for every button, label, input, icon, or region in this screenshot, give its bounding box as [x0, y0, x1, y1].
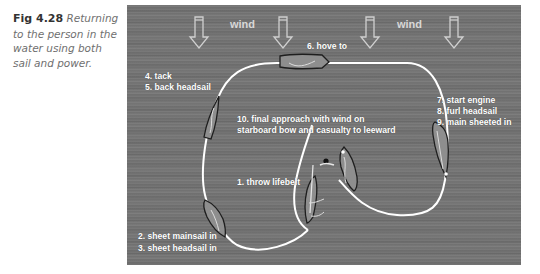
boat-tacking-icon: [204, 96, 219, 139]
wind-arrow-icon: [274, 17, 292, 48]
wind-arrow-icon: [445, 17, 463, 48]
step-final-approach-label: 10. final approach with wind on: [237, 114, 364, 125]
step-tack-label: 4. tack: [145, 71, 172, 82]
step-start-engine-label: 7. start engine: [437, 95, 495, 106]
step-main-sheeted-label: 9. main sheeted in: [437, 117, 512, 128]
boat-track-line: [203, 63, 448, 250]
step-furl-headsail-label: 8. furl headsail: [437, 106, 497, 117]
man-overboard-diagram: wind wind 4. tack 5. back headsail 6. ho…: [127, 5, 521, 265]
step-hove-to-label: 6. hove to: [307, 41, 347, 52]
boat-motoring-icon: [433, 122, 449, 177]
step-back-headsail-label: 5. back headsail: [145, 82, 211, 93]
wind-label: wind: [230, 18, 255, 30]
wind-arrow-icon: [190, 17, 208, 48]
boat-throw-lifebelt-icon: [305, 165, 324, 223]
casualty-person-icon: [320, 158, 334, 165]
boat-hove-to-icon: [280, 54, 329, 68]
step-final-approach-label-line2: starboard bow and casualty to leeward: [237, 125, 396, 136]
figure-number: Fig 4.28: [13, 12, 63, 25]
step-throw-lifebelt-label: 1. throw lifebelt: [237, 177, 300, 188]
step-sheet-headsail-label: 3. sheet headsail in: [138, 243, 217, 254]
figure-caption: Fig 4.28 Returning to the person in the …: [13, 11, 121, 70]
step-sheet-mainsail-label: 2. sheet mainsail in: [138, 231, 217, 242]
wind-arrow-icon: [361, 17, 379, 48]
wind-label: wind: [397, 18, 422, 30]
